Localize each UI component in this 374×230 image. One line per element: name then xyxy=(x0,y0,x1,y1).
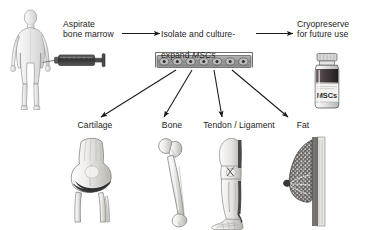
knee-joint-icon xyxy=(71,138,111,222)
breast-adipose-icon xyxy=(283,137,325,226)
human-body-icon xyxy=(11,10,51,110)
arrow-to-cartilage xyxy=(101,70,176,117)
lineage-label-tendon-ligament: Tendon / Ligament xyxy=(196,120,282,130)
arrow-to-fat xyxy=(232,70,288,117)
femur-bone-icon xyxy=(159,139,187,227)
syringe-icon xyxy=(43,54,106,67)
aspirate-step-label: Aspirate bone marrow xyxy=(63,19,125,40)
expand-step-label: Isolate and culture- expand MSCs xyxy=(161,19,257,61)
leg-tendon-icon xyxy=(212,138,243,229)
expand-step-label-line1: Isolate and culture- xyxy=(161,29,235,39)
expand-step-label-mscs: MSCs xyxy=(192,50,216,60)
msc-workflow-figure: MSCs xyxy=(0,0,374,230)
expand-step-label-line2-prefix: expand xyxy=(161,50,192,60)
lineage-label-cartilage: Cartilage xyxy=(66,120,124,130)
arrow-to-bone xyxy=(164,70,192,117)
arrow-to-tendon xyxy=(214,70,222,117)
cryopreserve-step-label: Cryopreserve for future use xyxy=(297,19,371,40)
lineage-label-fat: Fat xyxy=(285,120,321,130)
cryovial-icon: MSCs xyxy=(315,54,339,109)
lineage-label-bone: Bone xyxy=(150,120,194,130)
differentiation-arrows xyxy=(101,70,288,117)
